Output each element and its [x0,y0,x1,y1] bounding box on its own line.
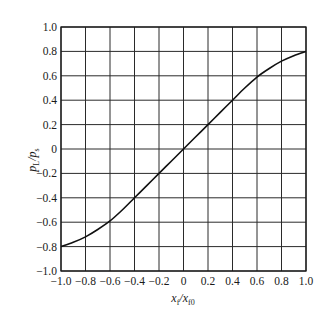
x-tick-label: −0.4 [124,275,145,287]
y-tick-label: −0.2 [36,167,57,179]
y-tick-label: 0.8 [43,45,58,57]
y-tick-label: 0 [51,143,57,155]
y-tick-label: 0.4 [43,94,58,106]
x-tick-label: 0.2 [201,275,216,287]
y-tick-label: 0.6 [43,70,58,82]
x-tick-label: 0.8 [274,275,289,287]
chart: 1.00.80.60.40.20−0.2−0.4−0.6−0.8−1.0 −1.… [0,0,331,321]
x-tick-label: 0.6 [250,275,265,287]
y-axis-label: pL/ps [25,148,41,172]
x-tick-label: −0.6 [100,275,121,287]
x-tick-label: 0.4 [225,275,240,287]
x-tick-label: −1.0 [51,275,72,287]
x-tick-label: 1.0 [299,275,314,287]
x-tick-label: −0.8 [75,275,96,287]
x-tick-label: 0 [181,275,187,287]
y-tick-label: −0.8 [36,241,57,253]
x-tick-label: −0.2 [149,275,170,287]
x-tick-labels: −1.0−0.8−0.6−0.4−0.200.20.40.60.81.0 [51,275,314,287]
y-tick-label: 1.0 [43,21,58,33]
y-tick-label: −0.6 [36,216,57,228]
y-tick-label: −0.4 [36,192,57,204]
y-tick-label: 0.2 [43,119,58,131]
x-axis-label: xf/xf0 [170,291,194,307]
